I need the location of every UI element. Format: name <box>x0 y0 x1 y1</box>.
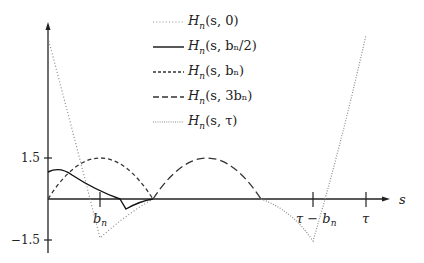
series-h-s-0 <box>48 38 153 238</box>
x-tick-label-tau: τ <box>362 211 370 226</box>
series-h-s-3bn <box>153 158 261 199</box>
legend-label-0: Hn(s, 0) <box>188 13 239 31</box>
legend-label-4: Hn(s, τ) <box>188 113 237 131</box>
legend-label-2: Hn(s, bₙ) <box>188 63 244 81</box>
x-axis-arrow-icon <box>382 197 390 202</box>
legend-samples <box>153 22 184 122</box>
y-axis-arrow-icon <box>46 22 51 30</box>
x-axis-label: s <box>399 192 406 207</box>
y-tick-label-top: 1.5 <box>21 151 40 165</box>
x-tick-label-tau-minus-bn: τ − bn <box>296 211 337 228</box>
x-tick-label-bn: bn <box>93 211 107 228</box>
y-tick-label-bottom: −1.5 <box>11 233 40 247</box>
legend-label-1: Hn(s, bₙ/2) <box>188 38 257 56</box>
legend-label-3: Hn(s, 3bₙ) <box>188 88 252 106</box>
